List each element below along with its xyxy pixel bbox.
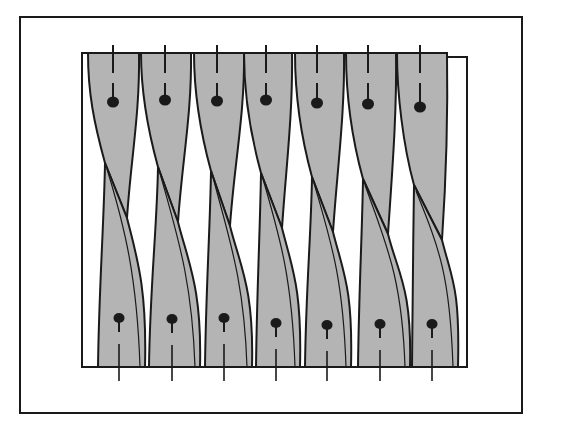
top-pin-dot [260, 95, 272, 106]
top-pin-dot [159, 95, 171, 106]
top-pin-dot [311, 98, 323, 109]
top-pin-dot [107, 97, 119, 108]
twisted-strips-figure [0, 0, 563, 435]
top-pin-dot [414, 102, 426, 113]
top-pin-dot [362, 99, 374, 110]
figure-caption [20, 429, 520, 435]
top-pin-dot [211, 96, 223, 107]
strip-5 [295, 53, 351, 367]
